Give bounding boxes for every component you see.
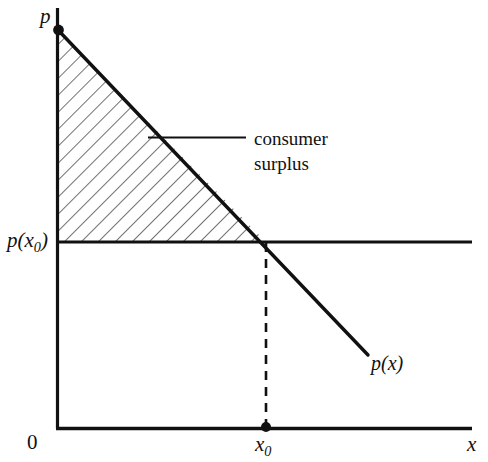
consumer-surplus-annotation-line2: surplus (254, 151, 328, 176)
price-at-x0-label: p(x0) (7, 230, 48, 254)
consumer-surplus-annotation: consumer surplus (254, 126, 328, 176)
quantity-x0-label: x0 (255, 434, 271, 458)
quantity-x0-label-main: x (255, 432, 264, 456)
quantity-x0-label-subscript: 0 (264, 443, 271, 459)
demand-curve-label: p(x) (371, 353, 403, 373)
y-axis-label: p (40, 6, 51, 27)
consumer-surplus-figure: p x 0 p(x0) x0 p(x) consumer surplus (0, 0, 488, 462)
demand-intercept-dot (53, 25, 64, 36)
price-at-x0-label-subscript: 0 (34, 239, 41, 255)
price-at-x0-label-main: p(x (7, 228, 34, 252)
consumer-surplus-annotation-line1: consumer (254, 126, 328, 151)
x-axis-label: x (467, 434, 476, 455)
diagram-canvas (0, 0, 488, 462)
price-at-x0-label-close: ) (41, 228, 48, 252)
origin-label: 0 (27, 432, 38, 453)
x0-axis-dot (261, 422, 271, 432)
